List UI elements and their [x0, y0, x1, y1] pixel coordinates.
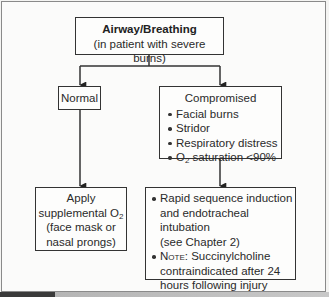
- compromised-label: Compromised: [160, 91, 281, 106]
- compromised-action-node: Rapid sequence induction and endotrachea…: [145, 187, 296, 280]
- root-title: Airway/Breathing: [76, 22, 223, 37]
- normal-action-line3: (face mask or: [36, 220, 126, 235]
- normal-node: Normal: [58, 86, 101, 110]
- criterion-stridor: Stridor: [167, 121, 281, 136]
- criterion-o2-saturation: O2 saturation <90%: [167, 150, 281, 165]
- criterion-facial-burns: Facial burns: [167, 107, 281, 122]
- normal-action-line4: nasal prongs): [36, 235, 126, 250]
- action-rsi: Rapid sequence induction and endotrachea…: [151, 191, 295, 249]
- normal-action-line1: Apply: [36, 191, 126, 206]
- root-node: Airway/Breathing (in patient with severe…: [75, 17, 224, 55]
- compromised-action-list: Rapid sequence induction and endotrachea…: [151, 191, 295, 293]
- root-subtitle: (in patient with severe burns): [76, 37, 223, 66]
- normal-action-line2: supplemental O2: [36, 206, 126, 221]
- note-label: Note:: [160, 250, 188, 262]
- compromised-node: Compromised Facial burns Stridor Respira…: [159, 86, 282, 159]
- criterion-respiratory-distress: Respiratory distress: [167, 136, 281, 151]
- compromised-criteria-list: Facial burns Stridor Respiratory distres…: [167, 107, 281, 165]
- normal-action-node: Apply supplemental O2 (face mask or nasa…: [35, 187, 127, 251]
- action-note: Note: Succinylcholine contraindicated af…: [151, 249, 295, 293]
- normal-label: Normal: [61, 92, 98, 104]
